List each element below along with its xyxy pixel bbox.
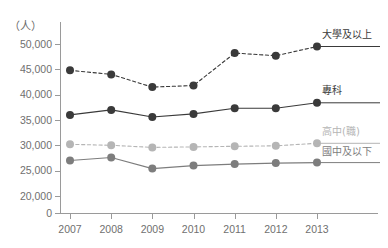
series-label-3: 高中(職) bbox=[322, 125, 360, 137]
chart-canvas: （人） 020,00025,00030,00035,00040,00045,00… bbox=[0, 0, 388, 248]
data-point-marker bbox=[66, 66, 74, 74]
data-point-marker bbox=[190, 162, 198, 170]
x-tick-label: 2012 bbox=[264, 223, 288, 235]
data-point-marker bbox=[66, 140, 74, 148]
data-point-marker bbox=[272, 104, 280, 112]
data-point-marker bbox=[231, 142, 239, 150]
data-point-marker bbox=[148, 83, 156, 91]
y-tick-label: 35,000 bbox=[20, 114, 52, 126]
data-point-marker bbox=[272, 142, 280, 150]
data-point-marker bbox=[231, 160, 239, 168]
y-tick-label: 30,000 bbox=[20, 139, 52, 151]
y-tick-label: 0 bbox=[46, 207, 52, 219]
x-tick-label: 2010 bbox=[182, 223, 206, 235]
line-chart-figure: （人） 020,00025,00030,00035,00040,00045,00… bbox=[0, 0, 388, 248]
data-point-marker bbox=[272, 52, 280, 60]
x-axis-ticks: 2007200820092010201120122013 bbox=[58, 214, 329, 236]
y-axis-ticks: 020,00025,00030,00035,00040,00045,00050,… bbox=[20, 38, 61, 219]
y-axis-unit-label: （人） bbox=[9, 20, 42, 33]
x-tick-label: 2011 bbox=[223, 223, 246, 235]
data-point-marker bbox=[148, 113, 156, 121]
y-tick-label: 45,000 bbox=[20, 63, 52, 75]
data-point-marker bbox=[148, 165, 156, 173]
y-tick-label: 40,000 bbox=[20, 88, 52, 100]
series-label-2: 專科 bbox=[322, 84, 342, 96]
series-label-group: 大學及以上專科高中(職)國中及以下 bbox=[317, 28, 380, 163]
data-point-marker bbox=[107, 141, 115, 149]
data-point-marker bbox=[190, 82, 198, 90]
data-point-marker bbox=[107, 70, 115, 78]
x-tick-label: 2007 bbox=[58, 223, 82, 235]
data-series-group bbox=[66, 43, 321, 173]
x-tick-label: 2013 bbox=[305, 223, 329, 235]
y-tick-label: 20,000 bbox=[20, 190, 52, 202]
data-point-marker bbox=[107, 154, 115, 162]
data-point-marker bbox=[66, 111, 74, 119]
series-label-1: 大學及以上 bbox=[322, 28, 372, 40]
y-tick-label: 25,000 bbox=[20, 164, 52, 176]
data-point-marker bbox=[66, 157, 74, 165]
x-tick-label: 2009 bbox=[141, 223, 165, 235]
x-tick-label: 2008 bbox=[99, 223, 123, 235]
series-label-4: 國中及以下 bbox=[322, 145, 372, 157]
data-point-marker bbox=[231, 49, 239, 57]
data-point-marker bbox=[190, 143, 198, 151]
data-point-marker bbox=[272, 159, 280, 167]
data-point-marker bbox=[231, 104, 239, 112]
data-point-marker bbox=[148, 143, 156, 151]
data-point-marker bbox=[107, 106, 115, 114]
series-line bbox=[70, 47, 317, 88]
data-point-marker bbox=[190, 110, 198, 118]
y-tick-label: 50,000 bbox=[20, 38, 52, 50]
